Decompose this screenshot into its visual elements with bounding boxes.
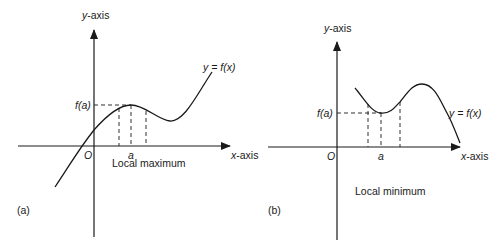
panel-b-local-minimum: y-axis x-axis O a f(a) y = f(x) Local mi… <box>268 22 488 240</box>
panel-b-point-label: a <box>378 150 384 162</box>
panel-a-caption: Local maximum <box>112 157 186 169</box>
panel-b-caption: Local minimum <box>355 185 426 197</box>
figure: y-axis x-axis O a f(a) y = f(x) Local ma… <box>0 0 504 247</box>
panel-a-x-axis-label: x-axis <box>230 149 258 161</box>
panel-b-value-label: f(a) <box>317 107 333 119</box>
panel-a-value-label: f(a) <box>75 99 91 111</box>
panel-b-curve <box>355 84 460 143</box>
panel-a-curve <box>55 72 212 187</box>
panel-b-panel-label: (b) <box>268 204 281 216</box>
panel-a-curve-label: y = f(x) <box>202 61 235 73</box>
panel-b-curve-label: y = f(x) <box>448 107 481 119</box>
panel-a-panel-label: (a) <box>17 204 30 216</box>
panel-a-origin-label: O <box>84 149 92 161</box>
panel-a-local-maximum: y-axis x-axis O a f(a) y = f(x) Local ma… <box>17 9 258 237</box>
panel-a-y-axis-label: y-axis <box>81 9 109 21</box>
panel-b-origin-label: O <box>327 150 335 162</box>
panel-b-y-axis-label: y-axis <box>323 22 351 34</box>
panel-b-x-axis-label: x-axis <box>460 150 488 162</box>
